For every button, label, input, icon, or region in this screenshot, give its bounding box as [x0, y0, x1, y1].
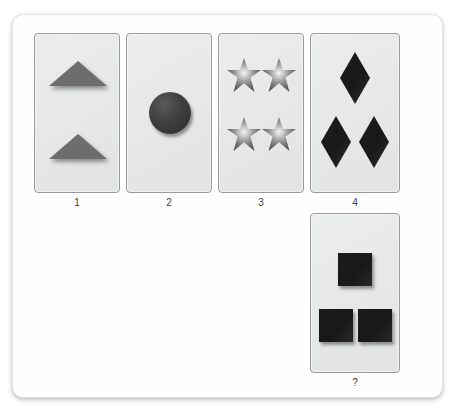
square-shape — [338, 253, 372, 286]
diamond-shape — [359, 116, 389, 168]
diamond-shape — [321, 116, 351, 168]
square-shape — [319, 309, 353, 342]
star-shape — [262, 58, 296, 92]
triangle-shape — [49, 61, 107, 86]
option-card-2[interactable] — [126, 33, 212, 193]
option-card-3[interactable] — [218, 33, 304, 193]
question-card-label: ? — [310, 377, 400, 389]
option-card-1[interactable] — [34, 33, 120, 193]
option-card-3-label: 3 — [218, 197, 304, 209]
circle-shape — [149, 92, 191, 134]
option-card-4-label: 4 — [310, 197, 400, 209]
option-card-4[interactable] — [310, 33, 400, 193]
square-shape — [358, 309, 392, 342]
star-shape — [227, 117, 261, 151]
puzzle-panel: 1 2 3 4 ? — [12, 14, 443, 398]
question-card[interactable] — [310, 213, 400, 373]
option-card-2-label: 2 — [126, 197, 212, 209]
star-shape — [227, 58, 261, 92]
clipped-header-text — [3, 0, 81, 4]
diamond-shape — [340, 52, 370, 104]
option-card-1-label: 1 — [34, 197, 120, 209]
triangle-shape — [49, 134, 107, 159]
star-shape — [262, 117, 296, 151]
